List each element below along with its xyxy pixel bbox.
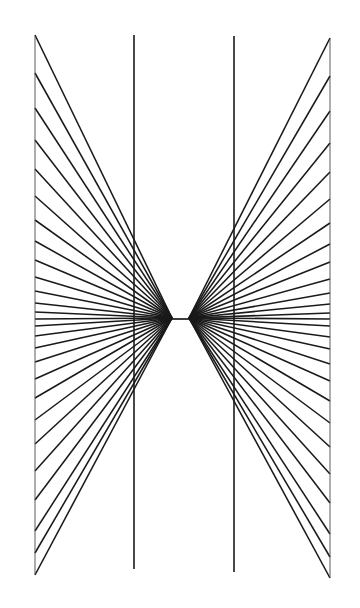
figure-canvas [0,0,360,608]
hering-illusion-svg [0,0,360,608]
